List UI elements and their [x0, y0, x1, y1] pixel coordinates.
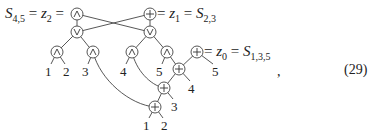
equals: = — [25, 5, 41, 21]
leaf-label: 4 — [188, 82, 195, 95]
leaf-label: 2 — [161, 119, 168, 132]
leaf-label: 5 — [212, 65, 219, 78]
equals: = — [157, 5, 169, 21]
leaf-label: 3 — [171, 100, 178, 113]
leaf-label: 3 — [82, 65, 89, 78]
s-subscript: 1,3,5 — [251, 51, 271, 62]
equals: = — [204, 43, 216, 59]
leaf-label: 4 — [120, 65, 127, 78]
trailing-comma: , — [277, 64, 281, 80]
s-subscript: 4,5 — [13, 13, 26, 24]
leaf-label: 5 — [156, 65, 163, 78]
leaf-label: 1 — [143, 119, 150, 132]
label-z1: = z1 = S2,3 — [157, 6, 216, 24]
equation-number: (29) — [344, 62, 367, 78]
s-symbol: S — [5, 5, 13, 21]
equals: = — [180, 5, 196, 21]
label-z0: = z0 = S1,3,5 — [204, 44, 271, 62]
s-symbol: S — [196, 5, 204, 21]
leaf-label: 2 — [63, 65, 70, 78]
s-subscript: 2,3 — [204, 13, 217, 24]
leaf-label: 1 — [45, 65, 52, 78]
equals: = — [227, 43, 243, 59]
equals: = — [52, 5, 64, 21]
s-symbol: S — [243, 43, 251, 59]
label-z2: S4,5 = z2 = — [5, 6, 64, 24]
